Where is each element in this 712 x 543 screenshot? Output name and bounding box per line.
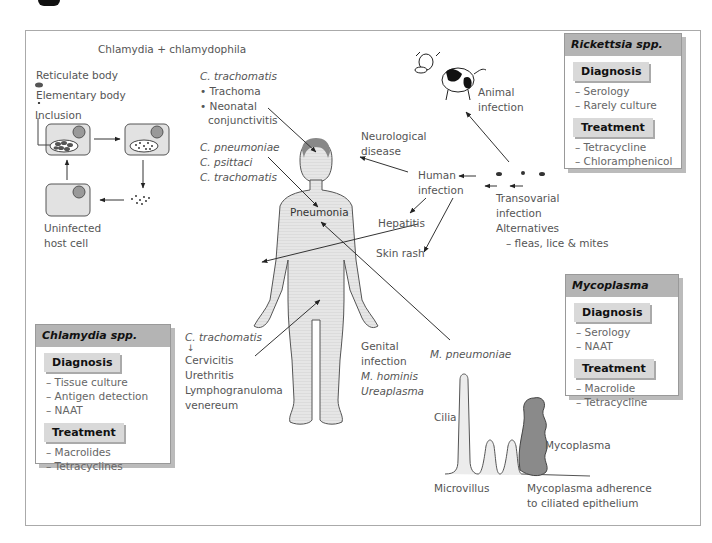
elementary-body-icon <box>38 102 40 104</box>
mycoplasma-diagnosis-header: Diagnosis <box>574 303 650 322</box>
chlamydia-diagnosis-header: Diagnosis <box>44 353 120 372</box>
host-cell-label: host cell <box>44 236 88 250</box>
chlamydia-info-box: Chlamydia spp. Diagnosis – Tissue cultur… <box>35 324 171 464</box>
mycoplasma-label: Mycoplasma <box>545 438 611 452</box>
rickettsia-treatment-item: – Chloramphenicol <box>565 154 681 168</box>
c-psittaci-label: C. psittaci <box>200 155 252 169</box>
rickettsia-box-title: Rickettsia spp. <box>565 34 681 56</box>
infected-cell-inclusion-icon <box>38 118 90 155</box>
cilia-label: Cilia <box>434 410 457 424</box>
alternatives-label: Alternatives <box>496 221 559 235</box>
chlamydia-treatment-item: – Macrolides <box>36 445 170 459</box>
c-trachomatis-genital-species: C. trachomatis <box>185 330 262 344</box>
mycoplasma-diagnosis-item: – NAAT <box>566 339 678 353</box>
rickettsia-diagnosis-item: – Rarely culture <box>565 98 681 112</box>
c-pneumoniae-label: C. pneumoniae <box>200 140 280 154</box>
venereum-label: venereum <box>185 398 238 412</box>
rickettsia-diagnosis-header: Diagnosis <box>573 62 649 81</box>
human-infection-label: infection <box>418 183 464 197</box>
microvillus-label: Microvillus <box>434 481 489 495</box>
mycoplasma-shape <box>519 398 547 476</box>
chlamydia-diagnosis-item: – NAAT <box>36 403 170 417</box>
m-pneumoniae-label: M. pneumoniae <box>430 347 511 361</box>
ureaplasma-label: Ureaplasma <box>361 384 424 398</box>
mycoplasma-treatment-header: Treatment <box>574 359 654 378</box>
rickettsia-info-box: Rickettsia spp. Diagnosis – Serology – R… <box>564 33 682 169</box>
chlamydia-diagnosis-item: – Tissue culture <box>36 375 170 389</box>
chlamydia-treatment-item: – Tetracyclines <box>36 459 170 473</box>
c-trachomatis-eye-species: C. trachomatis <box>200 69 277 83</box>
rickettsia-diagnosis-item: – Serology <box>565 84 681 98</box>
trachoma-condition: • Trachoma <box>200 84 261 98</box>
neonatal-condition: • Neonatal <box>200 99 257 113</box>
fleas-lice-mites-label: – fleas, lice & mites <box>506 236 608 250</box>
uninfected-label: Uninfected <box>44 221 101 235</box>
chlamydia-box-title: Chlamydia spp. <box>36 325 170 347</box>
reticulate-body-icon <box>35 83 43 88</box>
tick-vector-icons <box>496 171 545 176</box>
urethritis-label: Urethritis <box>185 368 234 382</box>
adherence-caption-1: Mycoplasma adherence <box>527 481 652 495</box>
human-label: Human <box>418 168 456 182</box>
cervicitis-label: Cervicitis <box>185 353 233 367</box>
released-elementary-bodies-icon <box>131 195 150 205</box>
cow-icon <box>415 52 486 100</box>
genital-label: Genital <box>361 339 399 353</box>
mycoplasma-info-box: Mycoplasma Diagnosis – Serology – NAAT T… <box>565 274 679 396</box>
rickettsia-treatment-item: – Tetracycline <box>565 140 681 154</box>
mycoplasma-treatment-item: – Macrolide <box>566 381 678 395</box>
mycoplasma-box-title: Mycoplasma <box>566 275 678 297</box>
mycoplasma-treatment-item: – Tetracycline <box>566 395 678 409</box>
neurological-label: Neurological <box>361 129 427 143</box>
chlamydia-diagnosis-item: – Antigen detection <box>36 389 170 403</box>
hepatitis-label: Hepatitis <box>378 216 425 230</box>
m-hominis-label: M. hominis <box>361 369 418 383</box>
c-trachomatis-pneumonia-label: C. trachomatis <box>200 170 277 184</box>
transovarial-infection-label: infection <box>496 206 542 220</box>
mycoplasma-diagnosis-item: – Serology <box>566 325 678 339</box>
animal-infection-label: infection <box>478 100 524 114</box>
pneumonia-label: Pneumonia <box>290 205 349 219</box>
chlamydia-treatment-header: Treatment <box>44 423 124 442</box>
legend-elementary-body: Elementary body <box>36 88 126 102</box>
uninfected-host-cell-icon <box>46 184 90 216</box>
neonatal-label: Neonatal <box>210 100 257 112</box>
conjunctivitis-label: conjunctivitis <box>208 113 278 127</box>
rickettsia-treatment-header: Treatment <box>573 118 653 137</box>
skin-rash-label: Skin rash <box>376 246 425 260</box>
adherence-caption-2: to ciliated epithelium <box>527 496 638 510</box>
legend-reticulate-body: Reticulate body <box>36 68 118 82</box>
transovarial-label: Transovarial <box>496 191 559 205</box>
inclusion-label: Inclusion <box>35 108 82 122</box>
diagram-title: Chlamydia + chlamydophila <box>98 42 246 56</box>
lymphogranuloma-label: Lymphogranuloma <box>185 383 283 397</box>
animal-label: Animal <box>478 85 514 99</box>
trachoma-label: Trachoma <box>210 85 261 97</box>
infected-cell-elementary-icon <box>125 124 169 155</box>
disease-label: disease <box>361 144 401 158</box>
genital-infection-label: infection <box>361 354 407 368</box>
